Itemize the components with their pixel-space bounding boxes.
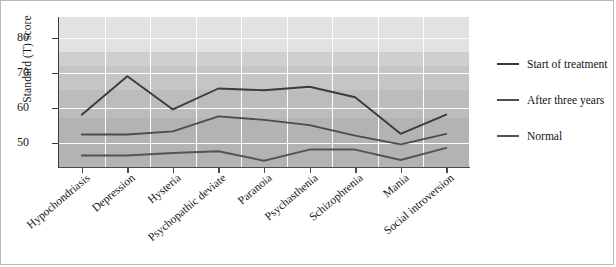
- x-axis-tick-label: Mania: [173, 171, 411, 267]
- x-axis-tick-label: Psychasthenia: [82, 171, 320, 267]
- x-axis-tick-label: Paranoia: [36, 171, 274, 267]
- chart-legend: Start of treatment After three years Nor…: [497, 57, 613, 165]
- y-axis-tick-label: 70: [5, 65, 29, 80]
- x-axis-tick-label: Social introversion: [219, 171, 457, 267]
- x-axis-tick: [218, 167, 219, 173]
- x-axis-tick: [401, 167, 402, 173]
- legend-label: Start of treatment: [527, 58, 607, 70]
- chart-frame: Standard (T) score 50607080 Hypochondria…: [0, 0, 614, 265]
- x-axis-tick: [82, 167, 83, 173]
- data-series: [59, 17, 469, 167]
- y-axis-tick-label: 80: [5, 30, 29, 45]
- legend-swatch: [497, 99, 519, 101]
- x-axis-tick: [264, 167, 265, 173]
- x-axis-tick-label: Schizophrenia: [127, 171, 365, 267]
- series-line: [82, 76, 446, 134]
- legend-label: Normal: [527, 130, 562, 142]
- legend-swatch: [497, 63, 519, 65]
- y-axis-tick-label: 60: [5, 100, 29, 115]
- x-axis-tick: [127, 167, 128, 173]
- legend-item-after-three-years: After three years: [497, 93, 613, 107]
- x-axis-tick: [355, 167, 356, 173]
- series-line: [82, 148, 446, 161]
- x-axis-tick: [173, 167, 174, 173]
- series-line: [82, 116, 446, 144]
- legend-item-normal: Normal: [497, 129, 613, 143]
- x-axis-tick: [310, 167, 311, 173]
- y-axis-ticks: 50607080: [1, 1, 59, 191]
- legend-swatch: [497, 135, 519, 137]
- y-axis-tick-label: 50: [5, 135, 29, 150]
- x-axis-tick: [446, 167, 447, 173]
- legend-label: After three years: [527, 94, 604, 106]
- legend-item-start-of-treatment: Start of treatment: [497, 57, 613, 71]
- plot-area: [59, 17, 469, 167]
